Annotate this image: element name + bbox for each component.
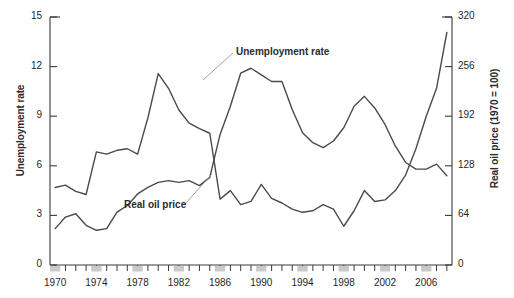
x-tick-label: 1970 bbox=[32, 277, 78, 288]
y-tick-label-left: 15 bbox=[16, 10, 42, 21]
y-tick-label-right: 320 bbox=[458, 10, 488, 21]
leader-line-unemployment bbox=[203, 53, 233, 80]
y-tick-label-left: 9 bbox=[16, 109, 42, 120]
left-axis-title: Unemployment rate bbox=[15, 71, 26, 191]
y-tick-label-left: 0 bbox=[16, 258, 42, 269]
y-tick-label-left: 3 bbox=[16, 208, 42, 219]
y-tick-label-left: 12 bbox=[16, 60, 42, 71]
y-tick-label-left: 6 bbox=[16, 159, 42, 170]
right-axis-title: Real oil price (1970 = 100) bbox=[489, 39, 500, 219]
x-tick-label: 1978 bbox=[115, 277, 161, 288]
y-tick-label-right: 128 bbox=[458, 159, 488, 170]
x-tick-label: 1974 bbox=[73, 277, 119, 288]
x-tick-label: 1990 bbox=[238, 277, 284, 288]
y-tick-label-right: 0 bbox=[458, 258, 488, 269]
annotation-real-oil-price: Real oil price bbox=[124, 199, 186, 210]
x-tick-label: 1982 bbox=[156, 277, 202, 288]
x-tick-label: 1986 bbox=[197, 277, 243, 288]
leader-line-oil-price bbox=[185, 174, 212, 204]
x-tick-label: 2002 bbox=[362, 277, 408, 288]
y-tick-label-right: 256 bbox=[458, 60, 488, 71]
chart-plot-area bbox=[0, 0, 514, 298]
y-tick-label-right: 64 bbox=[458, 208, 488, 219]
x-tick-label: 1998 bbox=[321, 277, 367, 288]
x-tick-label: 2006 bbox=[403, 277, 449, 288]
chart-figure: Unemployment rate Real oil price (1970 =… bbox=[0, 0, 514, 298]
annotation-unemployment-rate: Unemployment rate bbox=[236, 46, 329, 57]
right-axis-ticks bbox=[445, 17, 452, 265]
series-line-unemployment-rate bbox=[55, 68, 447, 230]
x-tick-label: 1994 bbox=[280, 277, 326, 288]
y-tick-label-right: 192 bbox=[458, 109, 488, 120]
